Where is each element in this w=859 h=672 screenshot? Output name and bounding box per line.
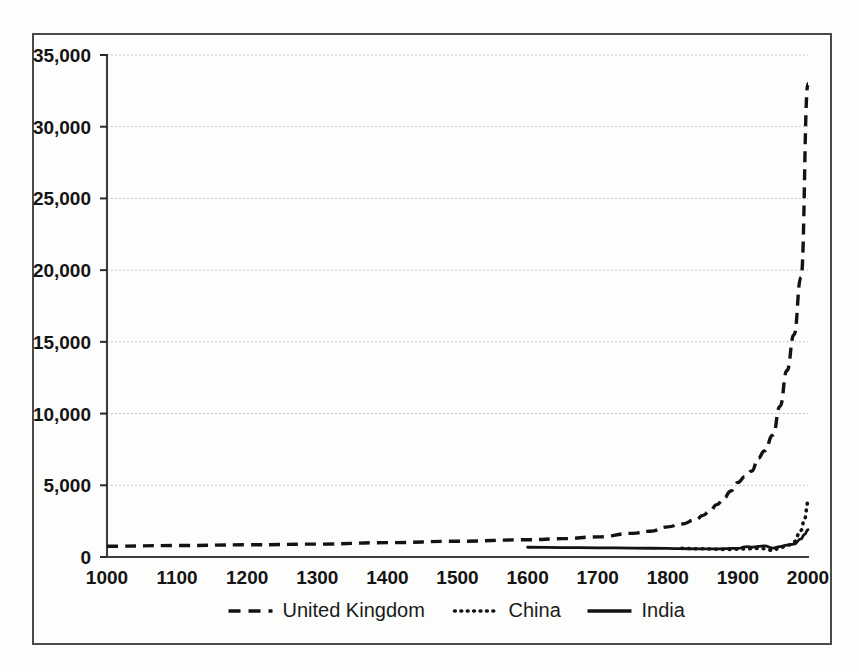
line-chart-canvas: 05,00010,00015,00020,00025,00030,00035,0… [0,0,859,672]
y-axis-tick-label: 5,000 [43,475,91,496]
x-axis-tick-label: 1400 [366,567,408,588]
data-series-group [107,84,808,551]
x-axis-tick-label: 1700 [577,567,619,588]
series-line-united-kingdom [107,84,808,547]
legend-item-india[interactable]: India [588,599,686,621]
gridlines-group [107,55,808,485]
series-line-india [528,530,808,549]
x-axis-tick-label: 1800 [647,567,689,588]
x-axis-tick-label: 1600 [506,567,548,588]
y-tick-labels-group: 05,00010,00015,00020,00025,00030,00035,0… [33,45,91,568]
y-axis-tick-label: 25,000 [33,188,91,209]
x-axis-tick-label: 1500 [436,567,478,588]
y-axis-tick-label: 15,000 [33,332,91,353]
y-axis-tick-label: 10,000 [33,404,91,425]
x-axis-tick-label: 2000 [787,567,829,588]
chart-legend: United KingdomChinaIndia [229,599,686,621]
legend-label: China [509,599,562,621]
y-axis-tick-label: 30,000 [33,117,91,138]
legend-item-china[interactable]: China [455,599,562,621]
legend-label: India [642,599,686,621]
x-axis-tick-label: 1000 [86,567,128,588]
x-axis-tick-label: 1300 [296,567,338,588]
x-tick-labels-group: 1000110012001300140015001600170018001900… [86,567,829,588]
x-axis-tick-label: 1900 [717,567,759,588]
chart-figure: 05,00010,00015,00020,00025,00030,00035,0… [0,0,859,672]
series-line-china [682,503,808,551]
legend-item-united-kingdom[interactable]: United Kingdom [229,599,425,621]
y-axis-tick-label: 0 [80,547,91,568]
legend-label: United Kingdom [283,599,425,621]
y-axis-tick-label: 35,000 [33,45,91,66]
y-axis-tick-label: 20,000 [33,260,91,281]
x-axis-tick-label: 1100 [156,567,197,588]
x-axis-tick-label: 1200 [226,567,268,588]
